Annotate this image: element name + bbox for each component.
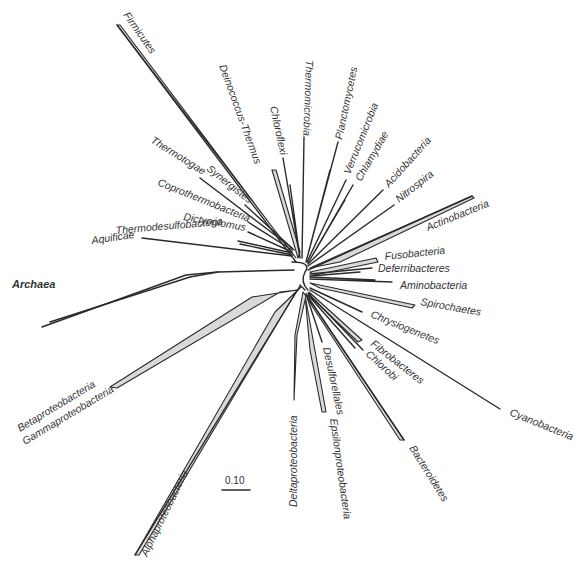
branch-aquificae xyxy=(142,238,292,256)
branch-planctomycetes xyxy=(306,142,338,262)
label-thermotogae: Thermotogae xyxy=(149,134,208,177)
branch-aminobacteria xyxy=(310,277,392,282)
label-fusobacteria: Fusobacteria xyxy=(384,244,446,262)
branch-deltaproteobacteria xyxy=(294,292,306,400)
label-chloroflexi: Chloroflexi xyxy=(268,105,290,157)
label-cyanobacteria: Cyanobacteria xyxy=(508,406,575,443)
label-planctomycetes: Planctomycetes xyxy=(332,65,359,141)
branch-verrucomicrobia xyxy=(307,180,346,262)
branch-archaea-inner xyxy=(50,272,218,322)
branch-betagammaproteobacteria xyxy=(110,290,298,388)
branch-thermomicrobia xyxy=(302,137,304,258)
label-aminobacteria: Aminobacteria xyxy=(399,279,467,291)
label-archaea: Archaea xyxy=(11,278,55,290)
label-epsilonproteobacteria: Epsilonproteobacteria xyxy=(328,418,354,520)
label-deltaproteobacteria: Deltaproteobacteria xyxy=(287,415,299,507)
label-alphaproteobacteria: Alphaproteobacteria xyxy=(138,468,190,559)
label-deferribacteres: Deferribacteres xyxy=(378,262,451,274)
phylogenetic-tree: 0.10 Firmicutes Deinococcus-Thermus Chlo… xyxy=(0,0,585,574)
branch-coprothermobacteria xyxy=(248,222,292,250)
label-spirochaetes: Spirochaetes xyxy=(420,295,483,318)
label-bacteroidetes: Bacteroidetes xyxy=(407,443,452,504)
label-deinococcus: Deinococcus-Thermus xyxy=(217,63,264,167)
scale-bar-label: 0.10 xyxy=(225,475,245,486)
label-firmicutes: Firmicutes xyxy=(121,9,159,56)
label-thermomicrobia: Thermomicrobia xyxy=(301,60,316,136)
